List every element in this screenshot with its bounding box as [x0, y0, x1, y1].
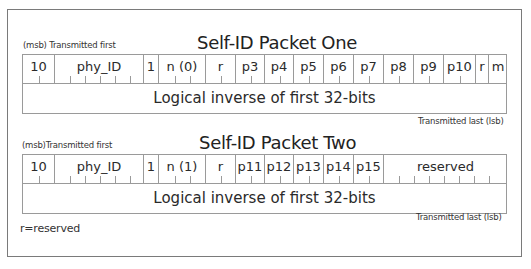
- packet-two-inverse-row: Logical inverse of first 32-bits: [22, 184, 507, 214]
- field-label: p10: [447, 59, 472, 74]
- field-cell: phy_ID: [55, 55, 144, 83]
- field-label: p12: [267, 159, 292, 174]
- field-label: p3: [242, 59, 259, 74]
- field-cell: p10: [444, 55, 476, 83]
- field-label: p8: [390, 59, 407, 74]
- field-cell: r: [206, 155, 236, 183]
- field-cell: 10: [23, 55, 55, 83]
- field-cell: 1: [144, 55, 159, 83]
- field-cell: n (0): [159, 55, 206, 83]
- field-cell: reserved: [384, 155, 507, 183]
- bit-tick: [251, 76, 252, 83]
- bit-tick: [309, 176, 310, 183]
- bit-tick: [429, 176, 430, 183]
- bit-tick: [221, 176, 222, 183]
- bit-tick: [251, 176, 252, 183]
- field-label: r: [479, 59, 484, 74]
- field-cell: p8: [384, 55, 414, 83]
- bit-tick: [489, 176, 490, 183]
- bit-tick: [339, 76, 340, 83]
- field-label: p13: [296, 159, 321, 174]
- bit-tick: [130, 176, 131, 183]
- bit-tick: [474, 176, 475, 183]
- field-cell: p14: [324, 155, 354, 183]
- field-label: 1: [147, 59, 155, 74]
- bit-tick: [175, 76, 176, 83]
- field-cell: 10: [23, 155, 55, 183]
- bit-tick: [115, 176, 116, 183]
- field-cell: p12: [265, 155, 294, 183]
- field-label: m: [492, 59, 505, 74]
- bit-tick: [130, 76, 131, 83]
- field-label: 1: [147, 159, 155, 174]
- bit-tick: [459, 176, 460, 183]
- bit-tick: [100, 76, 101, 83]
- field-label: p11: [238, 159, 263, 174]
- bit-tick: [175, 176, 176, 183]
- packet-one-title: Self-ID Packet One: [197, 32, 357, 53]
- bit-tick: [414, 176, 415, 183]
- field-cell: m: [489, 55, 507, 83]
- bit-tick: [339, 176, 340, 183]
- bit-tick: [85, 176, 86, 183]
- bit-tick: [190, 76, 191, 83]
- bit-tick: [70, 76, 71, 83]
- field-label: phy_ID: [77, 159, 122, 174]
- field-cell: r: [476, 55, 489, 83]
- packet-two-lsb-label: Transmitted last (lsb): [416, 212, 502, 222]
- field-label: n (0): [167, 59, 198, 74]
- packet-one-msb-label: (msb) Transmitted first: [23, 40, 116, 50]
- packet-one-field-row: 10phy_ID1n (0)rp3p4p5p6p7p8p9p10rm: [22, 54, 507, 84]
- bit-tick: [369, 76, 370, 83]
- bit-tick: [70, 176, 71, 183]
- bit-tick: [369, 176, 370, 183]
- field-cell: p13: [294, 155, 324, 183]
- field-label: p7: [360, 59, 377, 74]
- field-label: r: [218, 159, 223, 174]
- field-label: p9: [420, 59, 437, 74]
- bit-tick: [399, 176, 400, 183]
- bit-tick: [399, 76, 400, 83]
- field-label: 10: [30, 159, 47, 174]
- field-cell: p15: [354, 155, 384, 183]
- bit-tick: [115, 76, 116, 83]
- bit-tick: [280, 176, 281, 183]
- bit-tick: [85, 76, 86, 83]
- field-label: p4: [271, 59, 288, 74]
- bit-tick: [100, 176, 101, 183]
- packet-one-inverse-row: Logical inverse of first 32-bits: [22, 84, 507, 114]
- field-label: p6: [330, 59, 347, 74]
- field-label: n (1): [167, 159, 198, 174]
- bit-tick: [39, 76, 40, 83]
- bit-tick: [39, 176, 40, 183]
- bit-tick: [444, 176, 445, 183]
- field-cell: p5: [294, 55, 324, 83]
- bit-tick: [460, 76, 461, 83]
- bit-tick: [221, 76, 222, 83]
- packet-two-title: Self-ID Packet Two: [199, 132, 356, 153]
- field-cell: p4: [265, 55, 294, 83]
- field-label: phy_ID: [77, 59, 122, 74]
- bit-tick: [280, 76, 281, 83]
- bit-tick: [429, 76, 430, 83]
- packet-two-field-row: 10phy_ID1n (1)rp11p12p13p14p15reserved: [22, 154, 507, 184]
- field-cell: p6: [324, 55, 354, 83]
- field-cell: p9: [414, 55, 444, 83]
- reserved-legend: r=reserved: [20, 222, 80, 235]
- field-cell: p7: [354, 55, 384, 83]
- field-cell: p11: [236, 155, 265, 183]
- field-label: p14: [326, 159, 351, 174]
- packet-one-lsb-label: Transmitted last (lsb): [418, 116, 504, 126]
- field-label: r: [218, 59, 223, 74]
- field-label: 10: [30, 59, 47, 74]
- field-label: p5: [300, 59, 317, 74]
- field-cell: n (1): [159, 155, 206, 183]
- bit-tick: [190, 176, 191, 183]
- field-cell: phy_ID: [55, 155, 144, 183]
- field-label: p15: [356, 159, 381, 174]
- packet-two-msb-label: (msb)Transmitted first: [22, 140, 112, 150]
- field-cell: p3: [236, 55, 265, 83]
- field-label: reserved: [417, 159, 474, 174]
- bit-tick: [309, 76, 310, 83]
- field-cell: 1: [144, 155, 159, 183]
